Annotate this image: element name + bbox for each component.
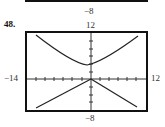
graph-frame: [25, 31, 148, 112]
problem-number: 48.: [4, 19, 15, 29]
ymin-label: −8: [85, 114, 95, 123]
previous-ymin-label: −8: [84, 7, 94, 16]
axes: [27, 33, 146, 110]
ymax-label: 12: [86, 21, 95, 30]
graph-curves: [36, 35, 138, 108]
xmax-label: 12: [151, 74, 160, 83]
graph-plot: [27, 33, 146, 110]
xmin-label: −14: [4, 74, 18, 83]
previous-graph-frame: [25, 0, 148, 2]
axis-ticks: [36, 41, 136, 102]
